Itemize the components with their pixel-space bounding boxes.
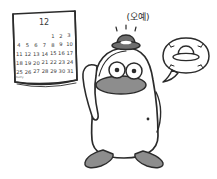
penguin-character — [83, 25, 163, 168]
calendar-day: 28 — [42, 68, 49, 74]
illustration-scene: 12 1 2 3 4 5 6 7 8 9 10 11 12 13 14 15 — [0, 0, 217, 179]
calendar-day: 14 — [41, 51, 48, 57]
calendar-day: 29 — [50, 68, 57, 74]
calendar-day: 1 — [51, 33, 54, 39]
penguin-beak — [96, 76, 146, 94]
calendar-month-label: 12 — [39, 18, 49, 27]
calendar-day: 22 — [50, 59, 57, 65]
calendar-day: 7 — [43, 42, 46, 48]
calendar-day: 24 — [67, 59, 74, 65]
calendar-day: 12 — [24, 51, 31, 57]
calendar-holiday-note: merry — [16, 76, 24, 79]
calendar-day: 15 — [50, 50, 57, 56]
calendar-day: 21 — [42, 59, 49, 65]
calendar-day: 20 — [33, 60, 40, 66]
calendar-day: 16 — [58, 50, 65, 56]
calendar-day: 18 — [16, 60, 23, 66]
calendar-day: 30 — [59, 68, 66, 74]
worn-hat-band-highlight — [121, 41, 132, 45]
calendar-day: 9 — [59, 41, 62, 47]
penguin-left-foot — [85, 150, 113, 168]
penguin-belly-dot — [147, 118, 150, 121]
penguin-left-pupil — [115, 68, 120, 73]
penguin-right-foot — [135, 151, 163, 168]
calendar-day: 2 — [59, 33, 62, 39]
penguin-worn-hat — [112, 35, 140, 50]
wall-calendar: 12 1 2 3 4 5 6 7 8 9 10 11 12 13 14 15 — [13, 11, 77, 87]
calendar-day: 6 — [34, 42, 37, 48]
dream-hat-brim — [173, 53, 199, 60]
calendar-day: 27 — [33, 68, 40, 74]
penguin-right-pupil — [132, 69, 137, 74]
sparkle-line — [135, 27, 136, 31]
sparkle-line — [116, 27, 117, 31]
calendar-day: 19 — [25, 60, 32, 66]
penguin-body — [92, 48, 158, 158]
speech-text: (오예) — [126, 12, 149, 22]
worn-hat-sparkles — [116, 25, 136, 31]
calendar-day: 13 — [33, 51, 40, 57]
thought-bubble — [163, 38, 209, 82]
calendar-day: 3 — [67, 32, 70, 38]
calendar-day: 17 — [66, 50, 73, 56]
thought-bubble-tail — [163, 70, 178, 82]
calendar-day: 8 — [51, 42, 54, 48]
calendar-day: 31 — [67, 68, 74, 74]
calendar-day: 25 — [16, 69, 23, 75]
calendar-day: 23 — [58, 59, 65, 65]
drawing-canvas: 12 1 2 3 4 5 6 7 8 9 10 11 12 13 14 15 — [0, 0, 217, 179]
calendar-day: 11 — [16, 51, 23, 57]
calendar-day: 10 — [66, 41, 73, 47]
calendar-day: 26 — [25, 69, 32, 75]
calendar-day: 5 — [26, 42, 29, 48]
